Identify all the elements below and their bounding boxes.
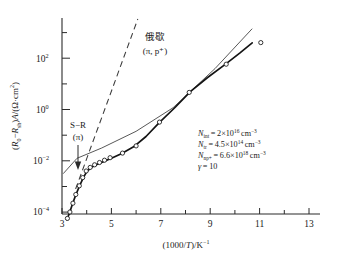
sr-label-line2: (π): [73, 132, 84, 142]
x-tick-label-13: 13: [304, 219, 314, 229]
parameter-row-nnp: Nnp+ = 6.6×1018 cm−3: [197, 150, 266, 162]
parameter-row-gamma: γ = 10: [198, 162, 217, 171]
x-axis-tick-labels: 3 5 7 9 11 13: [60, 219, 314, 229]
data-point-marker: [224, 62, 228, 66]
data-point-marker: [74, 192, 78, 196]
parameter-block: Nint = 2×1016 cm−3 Ntr = 4.5×1014 cm−3 N…: [197, 128, 266, 171]
data-point-marker: [108, 156, 112, 160]
sr-label: S−R (π): [70, 120, 86, 170]
data-point-marker: [97, 160, 101, 164]
data-point-marker: [68, 210, 72, 214]
y-tick-label-1e2: 102: [36, 52, 49, 64]
data-point-marker: [84, 169, 88, 173]
sr-arrowhead-icon: [75, 162, 81, 171]
data-point-marker: [77, 184, 81, 188]
auger-label: 俄歇 (π, p⁺): [143, 31, 168, 56]
x-axis-title-text: (1000/T)/K−1: [163, 239, 210, 250]
auger-label-cjk: 俄歇: [145, 31, 165, 42]
auger-dashed-line: [76, 19, 138, 189]
auger-label-sub: (π, p⁺): [143, 46, 168, 56]
figure-container: 102 100 10−2 10−4 3 5 7 9 11 13: [0, 0, 342, 261]
semilog-plot: 102 100 10−2 10−4 3 5 7 9 11 13: [0, 0, 342, 261]
x-tick-label-5: 5: [109, 219, 114, 229]
data-point-marker: [157, 120, 161, 124]
x-tick-label-9: 9: [208, 219, 213, 229]
data-point-marker: [93, 163, 97, 167]
data-point-marker: [134, 144, 138, 148]
axes-group: [62, 18, 320, 214]
x-axis-ticks: [62, 208, 309, 214]
y-tick-label-1e0: 100: [36, 103, 49, 115]
y-axis-ticks: [62, 33, 70, 213]
y-axis-tick-labels: 102 100 10−2 10−4: [33, 52, 49, 218]
data-point-marker: [187, 90, 191, 94]
y-axis-title: (R0−Rsh)A/(Ω·cm2): [9, 82, 22, 150]
x-tick-label-11: 11: [255, 219, 264, 229]
data-point-outlier: [259, 41, 263, 45]
data-point-marker: [102, 158, 106, 162]
parameter-row-ntr: Ntr = 4.5×1014 cm−3: [197, 139, 261, 151]
sr-label-line1: S−R: [70, 120, 86, 130]
data-point-marker: [120, 151, 124, 155]
y-tick-label-1e-4: 10−4: [33, 205, 49, 217]
data-point-marker: [65, 216, 69, 220]
y-tick-label-1e-2: 10−2: [33, 154, 49, 166]
x-tick-label-7: 7: [158, 219, 163, 229]
data-point-marker: [71, 201, 75, 205]
data-point-marker: [81, 176, 85, 180]
x-axis-title: (1000/T)/K−1: [163, 239, 210, 250]
parameter-row-nint: Nint = 2×1016 cm−3: [197, 128, 257, 140]
data-point-marker: [88, 165, 92, 169]
x-tick-label-3: 3: [60, 219, 65, 229]
y-axis-title-text: (R0−Rsh)A/(Ω·cm2): [9, 82, 22, 150]
